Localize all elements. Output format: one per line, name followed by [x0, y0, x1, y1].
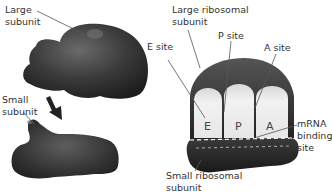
leader-large-ribosomal — [188, 30, 200, 68]
e-site-letter: E — [204, 120, 211, 133]
left-small-subunit — [12, 120, 119, 179]
label-large-ribosomal-1: Large ribosomal — [172, 4, 249, 15]
label-large-subunit-2: subunit — [5, 16, 40, 27]
label-small-subunit-2: subunit — [2, 106, 37, 117]
binding-sites: E P A — [194, 84, 288, 138]
label-mrna-3: site — [297, 142, 314, 153]
right-small-subunit — [187, 138, 299, 172]
label-small-ribosomal-2: subunit — [166, 182, 201, 193]
leader-large-subunit — [37, 11, 84, 34]
left-large-subunit — [23, 24, 148, 99]
label-p-site: P site — [218, 30, 244, 41]
label-large-ribosomal-2: subunit — [172, 16, 207, 27]
label-e-site: E site — [147, 41, 173, 52]
label-mrna-2: binding — [297, 130, 332, 141]
label-large-subunit-1: Large — [5, 4, 32, 15]
a-site-letter: A — [266, 120, 274, 133]
p-site-letter: P — [235, 120, 242, 133]
assembly-arrow — [48, 97, 62, 120]
label-a-site: A site — [264, 42, 291, 53]
label-mrna-1: mRNA — [297, 118, 326, 129]
label-small-ribosomal-1: Small ribosomal — [166, 170, 242, 181]
label-small-subunit-1: Small — [2, 94, 28, 105]
